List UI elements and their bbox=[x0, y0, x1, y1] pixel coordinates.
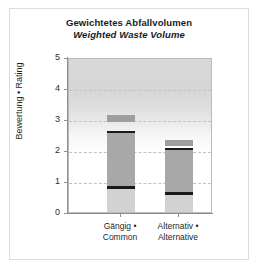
y-tick-label-5: 5 bbox=[46, 53, 60, 62]
bar-1-upper-cap bbox=[107, 115, 135, 122]
y-tick-label-4: 4 bbox=[46, 84, 60, 93]
y-tick-label-2: 2 bbox=[46, 146, 60, 155]
x-axis-line bbox=[67, 213, 213, 214]
chart-figure: Gewichtetes Abfallvolumen Weighted Waste… bbox=[0, 0, 258, 270]
bar-2-lower-tail bbox=[165, 193, 193, 212]
bar-2-median-line bbox=[165, 192, 193, 195]
bar-2 bbox=[165, 57, 193, 212]
x-axis-label-2: Alternativ •Alternative bbox=[135, 221, 221, 242]
y-tick-label-0: 0 bbox=[46, 208, 60, 217]
y-tick-label-1: 1 bbox=[46, 177, 60, 186]
y-tick-label-3: 3 bbox=[46, 115, 60, 124]
x-axis-label-2-line2: Alternative bbox=[135, 232, 221, 243]
bar-1-median-line bbox=[107, 186, 135, 189]
bar-1-lower-tail bbox=[107, 187, 135, 212]
bar-1 bbox=[107, 57, 135, 212]
x-axis-label-2-line1: Alternativ • bbox=[135, 221, 221, 232]
bar-2-upper-cap bbox=[165, 140, 193, 146]
y-axis-title: Bewertung • Rating bbox=[14, 46, 24, 156]
bar-1-box bbox=[107, 131, 135, 187]
x-tick-mark-2 bbox=[178, 213, 179, 217]
plot-area bbox=[68, 58, 212, 213]
x-tick-mark-1 bbox=[120, 213, 121, 217]
bar-2-box bbox=[165, 148, 193, 192]
